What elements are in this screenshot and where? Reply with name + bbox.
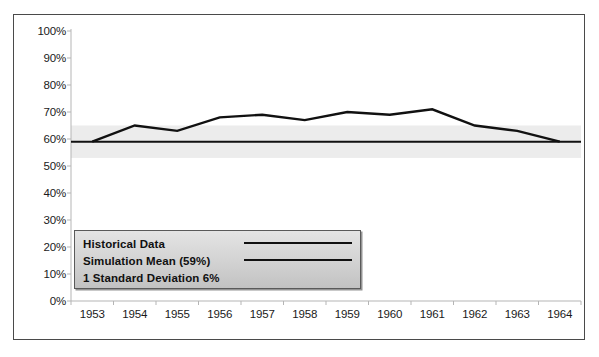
legend-label: 1 Standard Deviation 6% <box>83 272 220 284</box>
legend-line-swatch <box>244 242 352 244</box>
x-axis-tick-label: 1964 <box>530 308 590 321</box>
legend-item-standard-deviation: 1 Standard Deviation 6% <box>83 268 360 285</box>
chart-canvas <box>14 15 586 341</box>
legend-item-historical-data: Historical Data <box>83 234 360 251</box>
chart-legend: Historical Data Simulation Mean (59%) 1 … <box>74 230 361 289</box>
legend-label: Simulation Mean (59%) <box>83 255 210 267</box>
legend-item-simulation-mean: Simulation Mean (59%) <box>83 251 360 268</box>
chart-frame: 100%90%80%70%60%50%40%30%20%10%0% 195319… <box>13 14 585 340</box>
legend-label: Historical Data <box>83 238 165 250</box>
legend-line-swatch <box>244 259 352 261</box>
plot-area: 100%90%80%70%60%50%40%30%20%10%0% 195319… <box>14 15 584 339</box>
